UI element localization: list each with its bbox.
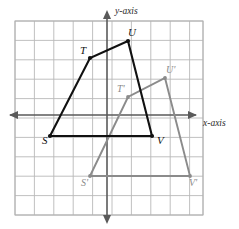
y-axis-arrow-up <box>103 10 111 19</box>
vertex-dot-t <box>88 56 92 60</box>
vertex-label-u: U <box>128 26 137 38</box>
vertex-label-s-prime: S' <box>81 177 89 188</box>
vertex-dot-t-prime <box>126 95 130 99</box>
x-axis-arrow-left <box>9 111 18 119</box>
preimage-vertex-labels: S T U V <box>42 26 165 146</box>
vertex-dot-s <box>48 134 52 138</box>
vertex-label-t-prime: T' <box>117 83 126 94</box>
vertex-label-v: V <box>157 134 165 146</box>
vertex-label-t: T <box>80 44 87 56</box>
vertex-dot-v <box>150 134 154 138</box>
vertex-dot-u <box>126 39 130 43</box>
coordinate-plane-diagram: y-axis x-axis S T U V S' T' U' V' <box>0 0 239 229</box>
vertex-label-u-prime: U' <box>166 64 176 75</box>
vertex-label-s: S <box>42 134 48 146</box>
vertex-label-v-prime: V' <box>189 177 198 188</box>
preimage-quadrilateral <box>50 41 152 136</box>
vertex-dot-u-prime <box>163 76 167 80</box>
coordinate-plane-svg: y-axis x-axis S T U V S' T' U' V' <box>0 0 239 229</box>
y-axis-arrow-down <box>103 215 111 224</box>
vertex-dot-s-prime <box>88 174 92 178</box>
y-axis-label: y-axis <box>114 6 138 16</box>
x-axis-label: x-axis <box>202 118 226 128</box>
y-axis <box>103 10 111 224</box>
